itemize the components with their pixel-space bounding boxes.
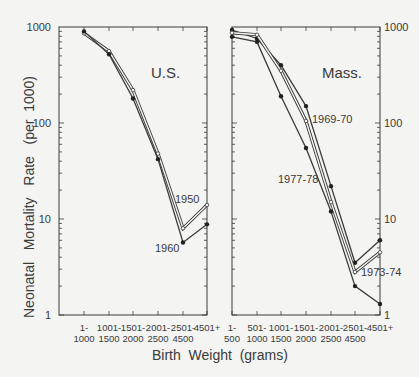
data-point — [131, 96, 135, 100]
x-axis-label: Birth Weight (grams) — [152, 347, 288, 363]
x-tick-label: 2501- — [171, 322, 195, 333]
y-tick-label: 1 — [45, 309, 51, 321]
panel-title-mass: Mass. — [322, 64, 362, 81]
plot-frame — [59, 27, 207, 315]
x-tick-label: 4501+ — [194, 322, 221, 333]
data-point — [156, 157, 160, 161]
x-tick-label: 1000 — [246, 333, 267, 344]
data-point — [378, 302, 382, 306]
data-point — [255, 33, 259, 37]
y-axis-label: Neonatal Mortality Rate (per 1000) — [21, 76, 37, 318]
y-tick-label: 10 — [384, 213, 396, 225]
x-tick-label: 1501- — [294, 322, 318, 333]
data-point — [230, 31, 234, 35]
data-point — [304, 146, 308, 150]
data-point — [329, 200, 333, 204]
x-tick-label: 2001- — [146, 322, 170, 333]
label-1950: 1950 — [175, 193, 199, 205]
data-point — [329, 184, 333, 188]
label-1973-74: 1973-74 — [361, 266, 401, 278]
y-tick-label: 1000 — [27, 21, 51, 33]
x-tick-label: 2000 — [295, 333, 316, 344]
data-point — [378, 238, 382, 242]
x-tick-label: 1000 — [73, 333, 94, 344]
x-tick-label: 1500 — [270, 333, 291, 344]
data-point — [279, 69, 283, 73]
x-tick-label: 2001- — [319, 322, 343, 333]
x-tick-label: 4500 — [172, 333, 193, 344]
x-tick-label: 2500 — [147, 333, 168, 344]
data-point — [82, 29, 86, 33]
label-1960: 1960 — [155, 242, 179, 254]
data-point — [230, 35, 234, 39]
data-point — [181, 240, 185, 244]
data-point — [205, 222, 209, 226]
x-tick-label: 1- — [80, 322, 88, 333]
data-point — [329, 209, 333, 213]
data-point — [131, 88, 135, 92]
data-point — [353, 270, 357, 274]
y-tick-label: 10 — [39, 213, 51, 225]
data-point — [304, 119, 308, 123]
chart-svg: 10001001011-10001001-15001501-20002001-2… — [0, 0, 419, 377]
data-point — [181, 227, 185, 231]
chart-figure: 10001001011-10001001-15001501-20002001-2… — [0, 0, 419, 377]
data-point — [107, 52, 111, 56]
y-tick-label: 1 — [384, 309, 390, 321]
y-tick-label: 100 — [384, 117, 402, 129]
panel-title-us: U.S. — [151, 64, 180, 81]
x-tick-label: 1001- — [269, 322, 293, 333]
x-tick-label: 2000 — [122, 333, 143, 344]
x-tick-label: 501- — [247, 322, 266, 333]
x-tick-label: 2500 — [320, 333, 341, 344]
x-tick-label: 2501- — [343, 322, 367, 333]
data-point — [353, 284, 357, 288]
x-tick-label: 4500 — [344, 333, 365, 344]
x-tick-label: 1500 — [98, 333, 119, 344]
label-1969-70: 1969-70 — [312, 113, 352, 125]
data-point — [205, 203, 209, 207]
label-1977-78: 1977-78 — [278, 173, 318, 185]
data-point — [255, 40, 259, 44]
y-tick-label: 1000 — [384, 21, 408, 33]
x-tick-label: 1001- — [97, 322, 121, 333]
data-point — [304, 104, 308, 108]
x-tick-label: 4501+ — [367, 322, 394, 333]
x-tick-label: 500 — [224, 333, 240, 344]
x-tick-label: 1501- — [121, 322, 145, 333]
data-point — [279, 94, 283, 98]
x-tick-label: 1- — [228, 322, 236, 333]
series-line-1960 — [84, 31, 207, 242]
data-point — [378, 250, 382, 254]
